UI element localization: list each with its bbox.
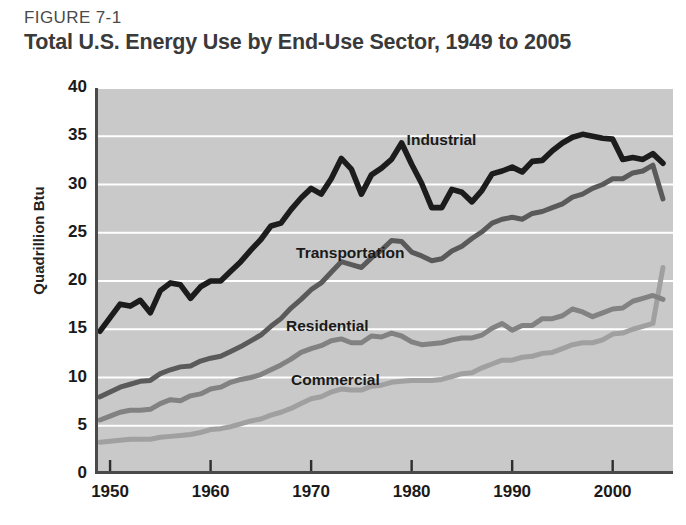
series-label-residential: Residential bbox=[286, 317, 369, 335]
x-axis-tick-1980: 1980 bbox=[382, 482, 442, 502]
figure-number-label: FIGURE 7-1 bbox=[24, 8, 122, 28]
y-axis-tick-5: 5 bbox=[43, 415, 87, 435]
x-axis-tick-1950: 1950 bbox=[80, 482, 140, 502]
x-axis-tick-1990: 1990 bbox=[482, 482, 542, 502]
y-axis-tick-15: 15 bbox=[43, 318, 87, 338]
y-axis-tick-35: 35 bbox=[43, 125, 87, 145]
y-axis-tick-0: 0 bbox=[43, 463, 87, 483]
figure-title: Total U.S. Energy Use by End-Use Sector,… bbox=[24, 30, 571, 55]
x-axis-tick-1960: 1960 bbox=[181, 482, 241, 502]
y-axis-tick-10: 10 bbox=[43, 367, 87, 387]
y-axis-tick-30: 30 bbox=[43, 174, 87, 194]
plot-area: IndustrialTransportationResidentialComme… bbox=[95, 88, 673, 474]
y-axis-tick-25: 25 bbox=[43, 222, 87, 242]
x-axis-tick-1970: 1970 bbox=[281, 482, 341, 502]
series-label-commercial: Commercial bbox=[291, 371, 380, 389]
y-axis-tick-20: 20 bbox=[43, 270, 87, 290]
series-label-industrial: Industrial bbox=[407, 131, 477, 149]
y-axis-tick-40: 40 bbox=[43, 77, 87, 97]
x-axis-tick-2000: 2000 bbox=[583, 482, 643, 502]
figure-container: FIGURE 7-1 Total U.S. Energy Use by End-… bbox=[0, 0, 686, 525]
series-label-transportation: Transportation bbox=[296, 244, 405, 262]
chart-svg bbox=[95, 88, 673, 474]
